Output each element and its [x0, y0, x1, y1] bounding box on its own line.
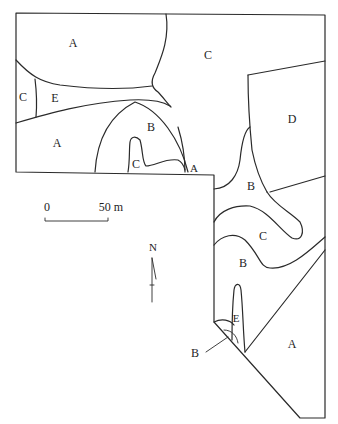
unit-label-c-lobe: C: [132, 158, 140, 170]
unit-label-d-east: D: [288, 113, 297, 125]
unit-label-b-callout: B: [191, 347, 199, 359]
scale-end-label: 50 m: [99, 201, 123, 213]
boundary-a-c: [152, 14, 171, 107]
boundary-c-e: [35, 79, 37, 117]
boundary-a-e: [16, 60, 152, 89]
boundary-e-base: [214, 320, 234, 325]
unit-label-b-southeast: B: [239, 257, 247, 269]
unit-label-a-south: A: [288, 338, 297, 350]
geologic-map: [0, 0, 338, 424]
boundary-d-south: [270, 176, 325, 192]
scale-start-label: 0: [44, 201, 50, 213]
unit-label-a-west: A: [53, 137, 62, 149]
unit-label-b-center: B: [147, 121, 155, 133]
boundary-d-west: [248, 75, 267, 192]
boundary-b-dome: [95, 102, 188, 172]
unit-label-c-west: C: [19, 91, 27, 103]
callout-line: [206, 337, 228, 352]
unit-label-e-west: E: [51, 92, 58, 104]
unit-label-b-east: B: [247, 180, 255, 192]
boundary-c-b: [214, 235, 325, 268]
unit-label-a-northwest: A: [69, 37, 78, 49]
scale-bar: [45, 218, 108, 221]
unit-label-c-north: C: [204, 49, 212, 61]
north-label: N: [149, 242, 157, 253]
unit-label-e-south: E: [233, 313, 240, 324]
unit-label-a-small: A: [190, 163, 198, 174]
map-boundary: [16, 13, 325, 418]
boundary-d: [248, 61, 325, 75]
north-arrow-icon: [150, 258, 156, 302]
unit-label-c-east: C: [259, 230, 267, 242]
boundary-b-east: [214, 127, 250, 189]
boundary-a-sliver: [178, 127, 185, 172]
